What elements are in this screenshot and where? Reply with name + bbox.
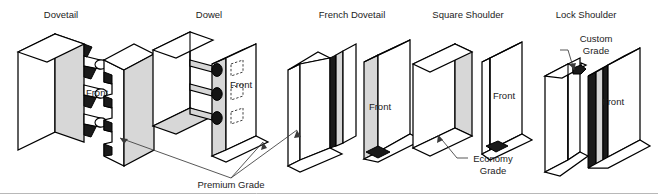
dovetail-front-label: Front	[86, 87, 109, 98]
joint-square-shoulder: Front	[413, 42, 532, 160]
dovetail-side-member	[18, 34, 84, 150]
joint-title-lock-shoulder: Lock Shoulder	[556, 9, 617, 20]
joint-french-dovetail: Front	[288, 40, 422, 172]
joint-dovetail: Front	[18, 34, 154, 166]
dowel-front-label: Front	[230, 79, 253, 90]
joint-title-french-dovetail: French Dovetail	[319, 9, 386, 20]
diagram-canvas: Dovetail Dowel French Dovetail Square Sh…	[0, 0, 658, 194]
lock-shoulder-side-member	[545, 58, 588, 176]
joint-lock-shoulder: Front	[545, 48, 650, 176]
joint-title-square-shoulder: Square Shoulder	[432, 9, 503, 20]
dowel-front-member	[212, 44, 268, 162]
square-shoulder-front-member	[482, 42, 532, 160]
joint-title-dowel: Dowel	[196, 9, 222, 20]
callout-economy-grade-line2: Grade	[480, 165, 506, 176]
callout-custom-grade-line1: Custom	[580, 33, 613, 44]
callout-custom-grade-line2: Grade	[583, 45, 609, 56]
joint-dowel: Front	[153, 32, 268, 162]
french-dovetail-front-label: Front	[369, 101, 392, 112]
lock-shoulder-front-member	[588, 48, 650, 168]
joint-types-diagram: Dovetail Dowel French Dovetail Square Sh…	[0, 0, 658, 194]
square-shoulder-front-label: Front	[493, 90, 516, 101]
callout-economy-grade-line1: Economy	[473, 153, 513, 164]
callout-premium-grade-label: Premium Grade	[197, 179, 264, 190]
lock-shoulder-front-label: Front	[602, 96, 625, 107]
french-dovetail-side-member	[288, 44, 356, 172]
joint-title-dovetail: Dovetail	[44, 9, 78, 20]
dowel-side-member	[153, 32, 213, 134]
dowel-ends	[212, 64, 222, 125]
square-shoulder-side-member	[413, 44, 472, 156]
